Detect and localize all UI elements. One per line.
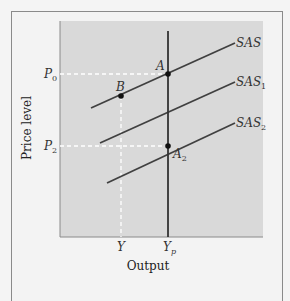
- tick-p0: P0: [43, 67, 57, 83]
- label-a: A: [155, 59, 165, 73]
- label-sas: SAS: [236, 36, 261, 50]
- point-a: [165, 71, 171, 77]
- tick-y: Y: [117, 240, 126, 254]
- point-b: [118, 93, 124, 99]
- x-axis-title: Output: [127, 259, 170, 273]
- tick-p2: P2: [43, 139, 57, 155]
- tick-yp: Yp: [163, 240, 176, 256]
- label-b: B: [115, 80, 125, 94]
- plot-area: [60, 21, 263, 237]
- y-axis-title: Price level: [20, 96, 34, 160]
- point-a2: [165, 143, 171, 149]
